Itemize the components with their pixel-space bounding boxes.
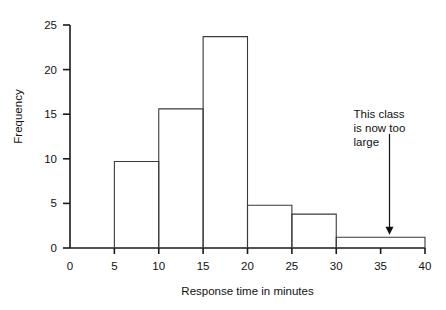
x-tick-label: 0 — [67, 260, 73, 272]
x-tick-labels: 0510152025303540 — [67, 260, 432, 272]
y-tick-marks — [63, 25, 70, 248]
x-tick-marks — [114, 248, 425, 254]
x-axis: 0510152025303540 — [67, 248, 432, 272]
annotation-line: is now too — [354, 122, 406, 134]
x-tick-label: 15 — [197, 260, 210, 272]
y-tick-labels: 0510152025 — [44, 19, 57, 254]
x-tick-label: 30 — [330, 260, 343, 272]
y-tick-label: 10 — [44, 153, 57, 165]
y-axis: 0510152025 — [44, 19, 70, 254]
y-tick-label: 15 — [44, 108, 57, 120]
annotation-text: This classis now toolarge — [354, 108, 406, 148]
chart-annotation: This classis now toolarge — [354, 108, 406, 235]
x-tick-label: 25 — [285, 260, 298, 272]
histogram-bar — [114, 161, 158, 248]
x-tick-label: 5 — [111, 260, 117, 272]
y-tick-label: 25 — [44, 19, 57, 31]
x-tick-label: 40 — [419, 260, 432, 272]
x-axis-title: Response time in minutes — [181, 285, 314, 297]
histogram-bar — [159, 109, 203, 248]
histogram-chart: 0510152025 0510152025303540 This classis… — [0, 0, 446, 310]
x-tick-label: 20 — [241, 260, 254, 272]
y-tick-label: 20 — [44, 64, 57, 76]
annotation-arrow-head — [386, 227, 394, 235]
histogram-bar — [292, 214, 336, 248]
chart-canvas: 0510152025 0510152025303540 This classis… — [0, 0, 446, 310]
x-tick-label: 35 — [374, 260, 387, 272]
x-tick-label: 10 — [152, 260, 165, 272]
y-axis-title: Frequency — [12, 89, 24, 144]
histogram-bar — [336, 237, 425, 248]
annotation-line: large — [354, 136, 380, 148]
y-tick-label: 5 — [51, 197, 57, 209]
histogram-bar — [203, 37, 247, 248]
annotation-line: This class — [354, 108, 405, 120]
y-tick-label: 0 — [51, 242, 57, 254]
histogram-bar — [248, 205, 292, 248]
